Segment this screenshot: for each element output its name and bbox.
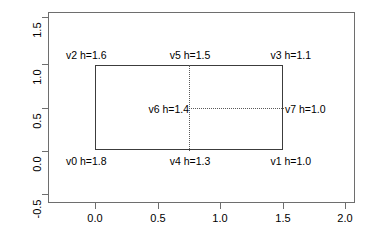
y-axis-tick-1.0 xyxy=(42,64,48,65)
vertex-label-v1: v1 h=1.0 xyxy=(270,155,311,167)
vertex-label-v0: v0 h=1.8 xyxy=(66,155,107,167)
y-axis-label-0.0: 0.0 xyxy=(32,157,43,197)
x-axis-label-1.5: 1.5 xyxy=(263,212,303,224)
vertex-label-v4: v4 h=1.3 xyxy=(170,155,211,167)
y-axis-label-0.5: 0.5 xyxy=(32,114,43,154)
x-axis-tick-0.5 xyxy=(158,203,159,209)
x-axis-label-0.0: 0.0 xyxy=(75,212,115,224)
y-axis-label--0.5: -0.5 xyxy=(32,200,43,240)
x-axis-tick-2.0 xyxy=(345,203,346,209)
x-axis-tick-1.0 xyxy=(220,203,221,209)
y-axis-tick--0.5 xyxy=(42,194,48,195)
x-axis-label-0.5: 0.5 xyxy=(138,212,178,224)
y-axis-label-1.0: 1.0 xyxy=(32,70,43,110)
y-axis-tick-0.0 xyxy=(42,151,48,152)
y-axis-tick-0.5 xyxy=(42,108,48,109)
vertex-label-v2: v2 h=1.6 xyxy=(66,49,107,61)
horizontal-split-line xyxy=(189,108,284,109)
x-axis-tick-0.0 xyxy=(95,203,96,209)
x-axis-label-2.0: 2.0 xyxy=(325,212,365,224)
vertex-label-v3: v3 h=1.1 xyxy=(270,49,311,61)
x-axis-tick-1.5 xyxy=(283,203,284,209)
x-axis-label-1.0: 1.0 xyxy=(200,212,240,224)
vertex-label-v5: v5 h=1.5 xyxy=(170,49,211,61)
vertex-label-v7: v7 h=1.0 xyxy=(285,103,326,115)
y-axis-label-1.5: 1.5 xyxy=(32,23,43,63)
plot-canvas: 1.5 1.0 0.5 0.0 -0.5 0.0 0.5 1.0 1.5 2.0… xyxy=(0,0,373,245)
y-axis-tick-1.5 xyxy=(42,17,48,18)
vertex-label-v6: v6 h=1.4 xyxy=(148,103,189,115)
